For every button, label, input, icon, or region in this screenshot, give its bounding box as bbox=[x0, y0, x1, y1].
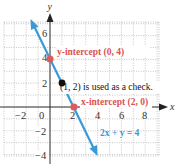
graph-2x-plus-y-equals-4: x y −2 0 2 4 6 8 6 4 2 −2 −4 bbox=[0, 0, 176, 168]
x-tick: 2 bbox=[70, 110, 75, 121]
y-tick: 2 bbox=[42, 78, 47, 89]
check-point-label: (1, 2) is used as a check. bbox=[60, 82, 153, 93]
y-tick: −2 bbox=[35, 126, 46, 137]
y-tick: −4 bbox=[35, 150, 47, 161]
x-intercept-point bbox=[70, 103, 77, 110]
x-axis-label: x bbox=[169, 101, 175, 112]
x-tick-labels: −2 0 2 4 6 8 bbox=[15, 110, 147, 121]
x-tick: 6 bbox=[119, 110, 124, 121]
equation-label: 2x + y = 4 bbox=[100, 128, 140, 138]
x-tick: 4 bbox=[95, 110, 101, 121]
y-tick: 6 bbox=[42, 28, 47, 39]
y-intercept-point bbox=[46, 55, 53, 62]
check-point bbox=[59, 80, 66, 87]
line-arrow-up-icon bbox=[31, 19, 39, 30]
y-tick-labels: 6 4 2 −2 −4 bbox=[34, 28, 49, 161]
x-tick: 8 bbox=[142, 110, 147, 121]
x-intercept-label: x-intercept (2, 0) bbox=[81, 97, 148, 108]
x-axis-arrow-icon bbox=[159, 104, 168, 111]
y-axis-label: y bbox=[47, 1, 53, 12]
y-axis-arrow-icon bbox=[47, 13, 54, 22]
x-tick: −2 bbox=[15, 110, 26, 121]
x-tick: 0 bbox=[39, 110, 44, 121]
y-intercept-label: y-intercept (0, 4) bbox=[57, 47, 124, 58]
